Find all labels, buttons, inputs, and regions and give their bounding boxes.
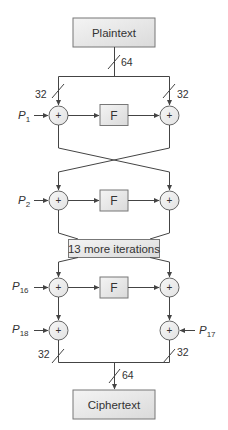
bus-width-32-left-bottom: 32 bbox=[38, 348, 50, 360]
subkey-p2: P2 bbox=[18, 194, 31, 209]
iterations-label: 13 more iterations bbox=[68, 243, 160, 255]
output-bus: 32 32 64 bbox=[38, 340, 189, 389]
subkey-p17: P17 bbox=[199, 324, 216, 339]
round-1: P1 + F + bbox=[18, 105, 179, 126]
svg-text:+: + bbox=[167, 110, 173, 121]
plaintext-block: Plaintext bbox=[73, 18, 155, 47]
bus-width-64-bottom: 64 bbox=[122, 369, 134, 381]
output-whitening: P18 + + P17 bbox=[12, 321, 216, 340]
bus-width-64-top: 64 bbox=[121, 56, 133, 68]
svg-text:+: + bbox=[167, 195, 173, 206]
svg-text:+: + bbox=[56, 282, 62, 293]
svg-text:+: + bbox=[167, 325, 173, 336]
more-iterations: 13 more iterations bbox=[59, 210, 170, 277]
swap-crossover bbox=[59, 125, 170, 190]
bus-width-32-left-top: 32 bbox=[35, 88, 47, 100]
round-2: P2 + F + bbox=[18, 190, 179, 211]
bus-width-32-right-bottom: 32 bbox=[177, 346, 189, 358]
subkey-p16: P16 bbox=[12, 280, 29, 295]
input-bus: 64 32 32 bbox=[35, 47, 189, 105]
plaintext-label: Plaintext bbox=[92, 27, 137, 39]
round-16: P16 + F + bbox=[12, 277, 179, 320]
svg-text:+: + bbox=[167, 282, 173, 293]
bus-width-32-right-top: 32 bbox=[177, 88, 189, 100]
svg-text:+: + bbox=[56, 110, 62, 121]
svg-text:F: F bbox=[110, 194, 117, 208]
subkey-p1: P1 bbox=[18, 109, 31, 124]
svg-text:F: F bbox=[110, 281, 117, 295]
svg-text:+: + bbox=[56, 195, 62, 206]
subkey-p18: P18 bbox=[12, 323, 29, 338]
ciphertext-block: Ciphertext bbox=[73, 390, 155, 419]
svg-text:F: F bbox=[110, 109, 117, 123]
svg-text:+: + bbox=[56, 325, 62, 336]
blowfish-diagram: Plaintext 64 32 32 P1 + F + P2 bbox=[0, 0, 228, 430]
ciphertext-label: Ciphertext bbox=[88, 399, 141, 411]
